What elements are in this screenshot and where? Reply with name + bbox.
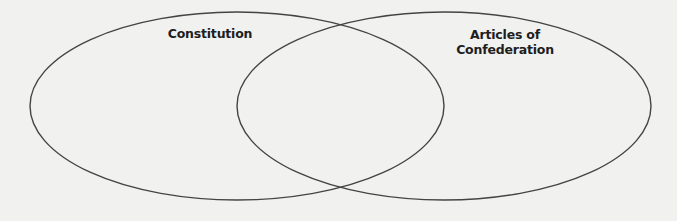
articles-label: Articles of Confederation xyxy=(440,27,570,57)
venn-diagram: Constitution Articles of Confederation xyxy=(0,0,677,221)
constitution-label-text: Constitution xyxy=(168,26,253,41)
articles-label-line1: Articles of xyxy=(440,27,570,42)
articles-label-line2: Confederation xyxy=(440,42,570,57)
constitution-label: Constitution xyxy=(150,26,270,41)
venn-svg xyxy=(0,0,677,221)
